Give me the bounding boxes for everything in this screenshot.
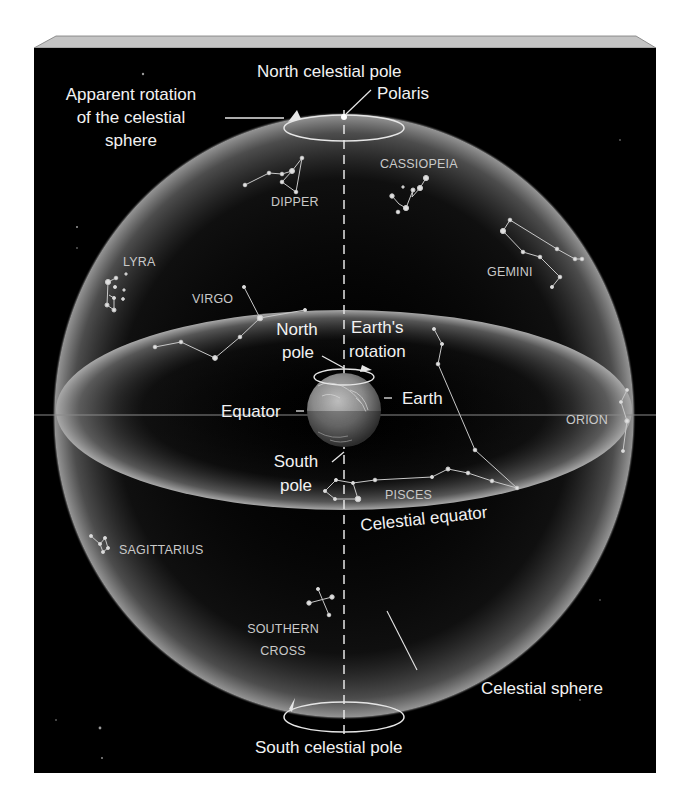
- label-north-pole-line1: North: [276, 320, 318, 339]
- label-polaris: Polaris: [377, 84, 429, 103]
- label-north-celestial-pole: North celestial pole: [257, 62, 402, 81]
- label-south-pole-line1: South: [274, 452, 318, 471]
- label-earths-rotation-line2: rotation: [349, 342, 406, 361]
- label-dipper: DIPPER: [271, 195, 319, 209]
- label-apparent-rotation-line1: Apparent rotation: [66, 85, 196, 104]
- label-north-pole-line2: pole: [282, 343, 314, 362]
- label-gemini: GEMINI: [487, 265, 533, 279]
- label-celestial-sphere: Celestial sphere: [481, 679, 603, 698]
- label-equator: Equator: [221, 402, 281, 421]
- label-cassiopeia: CASSIOPEIA: [380, 157, 458, 171]
- celestial-sphere-figure: North celestial pole Polaris Apparent ro…: [0, 0, 684, 799]
- label-south-celestial-pole: South celestial pole: [255, 738, 402, 757]
- label-southern-cross-line2: CROSS: [260, 644, 305, 658]
- label-earths-rotation-line1: Earth's: [351, 318, 403, 337]
- label-pisces: PISCES: [385, 488, 432, 502]
- label-sagittarius: SAGITTARIUS: [119, 543, 204, 557]
- frame-bevel: [34, 36, 656, 48]
- label-virgo: VIRGO: [192, 292, 233, 306]
- label-earth: Earth: [402, 389, 443, 408]
- label-southern-cross-line1: SOUTHERN: [247, 622, 319, 636]
- earth: [307, 373, 381, 447]
- label-orion: ORION: [566, 413, 608, 427]
- label-apparent-rotation-line3: sphere: [105, 131, 157, 150]
- label-lyra: LYRA: [123, 255, 156, 269]
- label-apparent-rotation-line2: of the celestial: [77, 108, 186, 127]
- label-south-pole-line2: pole: [280, 476, 312, 495]
- polaris-star: [341, 114, 347, 120]
